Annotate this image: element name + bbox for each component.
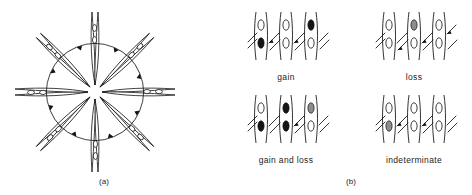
- nucleus: [93, 153, 97, 160]
- nucleus: [308, 121, 314, 131]
- nucleus: [436, 20, 442, 30]
- nucleus: [411, 103, 417, 113]
- nucleus: [411, 20, 417, 30]
- nucleus: [308, 103, 314, 113]
- nucleus: [156, 90, 163, 94]
- nucleus: [386, 103, 392, 113]
- case-label-loss: loss: [406, 72, 423, 82]
- nucleus: [93, 141, 97, 148]
- figure-background: [0, 0, 472, 195]
- nucleus: [283, 38, 289, 48]
- nucleus: [436, 121, 442, 131]
- nucleus: [436, 103, 442, 113]
- nucleus: [386, 20, 392, 30]
- nucleus: [258, 38, 264, 48]
- nucleus: [93, 37, 97, 44]
- panel-a-label: (a): [99, 177, 109, 186]
- case-label-indeterminate: indeterminate: [386, 155, 442, 165]
- nucleus: [258, 20, 264, 30]
- nucleus: [93, 25, 97, 32]
- nucleus: [28, 90, 35, 94]
- panel-b-label: (b): [346, 177, 356, 186]
- nucleus: [308, 20, 314, 30]
- nucleus: [283, 121, 289, 131]
- figure-canvas: (a): [0, 0, 472, 195]
- nucleus: [411, 121, 417, 131]
- case-label-gain-and-loss: gain and loss: [259, 155, 314, 165]
- nucleus: [144, 90, 151, 94]
- nucleus: [283, 103, 289, 113]
- nucleus: [386, 121, 392, 131]
- case-label-gain: gain: [277, 72, 294, 82]
- nucleus: [411, 38, 417, 48]
- nucleus: [308, 38, 314, 48]
- nucleus: [386, 38, 392, 48]
- nucleus: [258, 103, 264, 113]
- nucleus: [283, 20, 289, 30]
- nucleus: [436, 38, 442, 48]
- nucleus: [40, 90, 47, 94]
- nucleus: [258, 121, 264, 131]
